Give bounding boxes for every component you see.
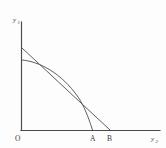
origin-label: O (15, 134, 21, 143)
figure-container: O A B y 1 y 2 (0, 0, 166, 148)
x-axis-label-subscript: 2 (156, 139, 159, 144)
y-axis-label: y (12, 16, 17, 24)
marker-label-a: A (90, 134, 96, 143)
x-axis-label: y (150, 135, 155, 143)
marker-label-b: B (107, 134, 112, 143)
y-axis-label-subscript: 1 (18, 20, 21, 25)
ppf-diagram: O A B y 1 y 2 (0, 0, 166, 148)
tangent-line (22, 48, 110, 130)
frontier-curve (22, 60, 93, 130)
